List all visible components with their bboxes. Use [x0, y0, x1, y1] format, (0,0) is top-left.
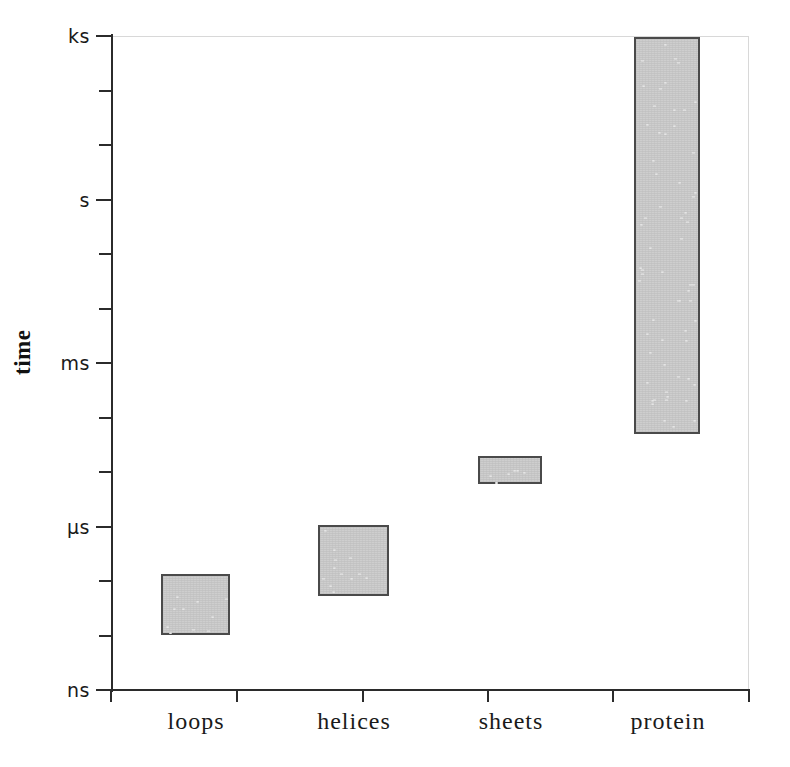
bar-texture-speck [694, 192, 697, 194]
bar-helices [318, 525, 389, 596]
bar-texture-speck [173, 608, 176, 610]
bar-texture-speck [673, 125, 676, 127]
bar-texture-speck [207, 630, 210, 632]
bar-texture-speck [692, 152, 695, 154]
bar-texture-speck [685, 340, 688, 342]
bar-texture-speck [687, 290, 690, 292]
bar-texture-speck [651, 403, 654, 405]
y-axis-minor-tick [99, 471, 112, 473]
bar-texture-speck [640, 224, 643, 226]
bar-texture-speck [641, 273, 644, 275]
x-axis-label-sheets: sheets [479, 708, 544, 735]
bar-texture-speck [211, 616, 214, 618]
bar-texture-speck [666, 396, 669, 398]
bar-texture-speck [684, 212, 687, 214]
bar-texture-speck [686, 221, 689, 223]
bar-texture-speck [365, 577, 368, 579]
bar-texture-speck [649, 247, 652, 249]
chart-canvas: time kssmsµsns loopshelicessheetsprotein [0, 0, 790, 767]
x-axis-line [111, 689, 750, 691]
bar-texture-speck [658, 132, 661, 134]
y-axis-minor-tick [99, 635, 112, 637]
bar-texture-speck [350, 578, 353, 580]
bar-texture-speck [687, 378, 690, 380]
y-axis-tick-label: ns [0, 679, 90, 701]
bar-texture-speck [516, 470, 519, 472]
bar-texture-speck [672, 426, 675, 428]
bar-texture-speck [324, 530, 327, 532]
bar-loops [161, 574, 230, 635]
bar-texture-speck [649, 352, 652, 354]
y-axis-major-tick [96, 362, 112, 364]
bar-texture-speck [489, 475, 492, 477]
y-axis-minor-tick [99, 90, 112, 92]
x-axis-label-helices: helices [317, 708, 391, 735]
bar-texture-speck [693, 420, 696, 422]
x-axis-tick [748, 689, 750, 702]
bar-texture-speck [495, 482, 498, 484]
y-axis-major-tick [96, 35, 112, 37]
x-axis-tick [236, 689, 238, 702]
bar-texture-speck [641, 269, 644, 271]
bar-texture-speck [644, 217, 647, 219]
bar-texture-speck [680, 238, 683, 240]
bar-texture-speck [196, 601, 199, 603]
y-axis-tick-label: s [0, 189, 90, 211]
x-axis-label-loops: loops [167, 708, 224, 735]
bar-texture-speck [674, 58, 677, 60]
bar-texture-speck [661, 271, 664, 273]
x-axis-label-protein: protein [631, 708, 706, 735]
x-axis-tick [110, 689, 112, 702]
bar-texture-speck [659, 206, 662, 208]
bar-texture-speck [655, 173, 658, 175]
y-axis-major-tick [96, 199, 112, 201]
bar-texture-speck [663, 364, 666, 366]
y-axis-minor-tick [99, 253, 112, 255]
bar-texture-speck [677, 62, 680, 64]
bar-texture-speck [684, 330, 687, 332]
bar-texture-speck [659, 88, 662, 90]
bar-texture-speck [349, 557, 352, 559]
bar-texture-speck [166, 626, 169, 628]
bar-texture-speck [694, 101, 697, 103]
bar-texture-speck [332, 591, 335, 593]
bar-texture-speck [646, 124, 649, 126]
y-axis-minor-tick [99, 580, 112, 582]
bar-texture-speck [358, 573, 361, 575]
bar-texture-speck [661, 339, 664, 341]
y-axis-minor-tick [99, 417, 112, 419]
bar-texture-speck [523, 472, 526, 474]
y-axis-tick-label: ms [0, 352, 90, 374]
bar-texture-speck [651, 400, 654, 402]
bar-texture-speck [652, 160, 655, 162]
y-axis-minor-tick [99, 308, 112, 310]
y-axis-minor-tick [99, 144, 112, 146]
bar-texture-speck [677, 376, 680, 378]
bar-texture-speck [322, 578, 325, 580]
bar-texture-speck [340, 573, 343, 575]
bar-texture-speck [646, 382, 649, 384]
bar-texture-speck [689, 300, 692, 302]
bar-sheets [478, 456, 542, 484]
bar-texture-speck [665, 399, 668, 401]
bar-texture-speck [664, 44, 667, 46]
bar-texture-speck [665, 391, 668, 393]
bar-texture-speck [694, 320, 697, 322]
bar-texture-speck [333, 567, 336, 569]
x-axis-tick [487, 689, 489, 702]
x-axis-tick [612, 689, 614, 702]
bar-texture-speck [663, 420, 666, 422]
bar-texture-speck [692, 284, 695, 286]
bar-texture-speck [225, 598, 228, 600]
bar-texture-speck [507, 473, 510, 475]
bar-texture-speck [329, 585, 332, 587]
bar-texture-speck [664, 133, 667, 135]
bar-texture-speck [693, 384, 696, 386]
bar-texture-speck [689, 284, 692, 286]
bar-texture-speck [683, 109, 686, 111]
bar-texture-speck [652, 319, 655, 321]
bar-texture-speck [334, 559, 337, 561]
bar-texture-speck [638, 280, 641, 282]
bar-texture-speck [192, 629, 195, 631]
y-axis-tick-label: µs [0, 516, 90, 538]
